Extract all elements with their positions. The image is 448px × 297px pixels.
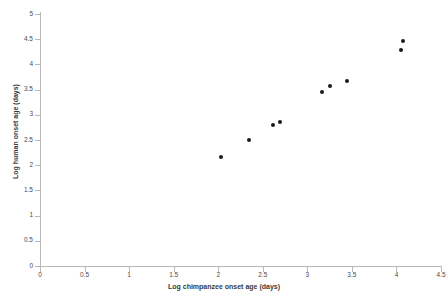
y-tick-label: 0 (0, 263, 33, 270)
y-axis-line (40, 12, 41, 267)
y-tick-mark (35, 115, 40, 116)
x-tick-label: 4 (381, 272, 411, 279)
scatter-chart: 00.511.522.533.544.55 00.511.522.533.544… (0, 0, 448, 297)
x-tick-label: 3.5 (337, 272, 367, 279)
y-tick-mark (35, 90, 40, 91)
data-point (219, 155, 223, 159)
y-tick-mark (35, 39, 40, 40)
data-point (401, 39, 405, 43)
data-point (247, 138, 251, 142)
y-tick-mark (35, 140, 40, 141)
y-tick-mark (35, 190, 40, 191)
y-tick-label: 4.5 (0, 36, 33, 43)
y-tick-label: 5 (0, 11, 33, 18)
x-tick-label: 4.5 (426, 272, 448, 279)
x-tick-label: 1.5 (159, 272, 189, 279)
y-tick-label: 1 (0, 212, 33, 219)
data-point (399, 48, 403, 52)
y-tick-mark (35, 216, 40, 217)
x-tick-label: 0 (25, 272, 55, 279)
y-tick-mark (35, 241, 40, 242)
x-tick-label: 2 (203, 272, 233, 279)
x-axis-line (40, 266, 442, 267)
data-point (345, 79, 349, 83)
data-point (278, 120, 282, 124)
y-tick-mark (35, 64, 40, 65)
y-tick-mark (35, 14, 40, 15)
y-tick-mark (35, 165, 40, 166)
x-tick-label: 3 (292, 272, 322, 279)
x-tick-label: 1 (114, 272, 144, 279)
y-axis-title: Log human onset age (days) (12, 62, 19, 202)
x-tick-label: 2.5 (248, 272, 278, 279)
data-point (271, 123, 275, 127)
data-point (328, 84, 332, 88)
x-tick-label: 0.5 (70, 272, 100, 279)
y-tick-label: 0.5 (0, 237, 33, 244)
data-point (320, 90, 324, 94)
x-axis-title: Log chimpanzee onset age (days) (0, 283, 448, 290)
